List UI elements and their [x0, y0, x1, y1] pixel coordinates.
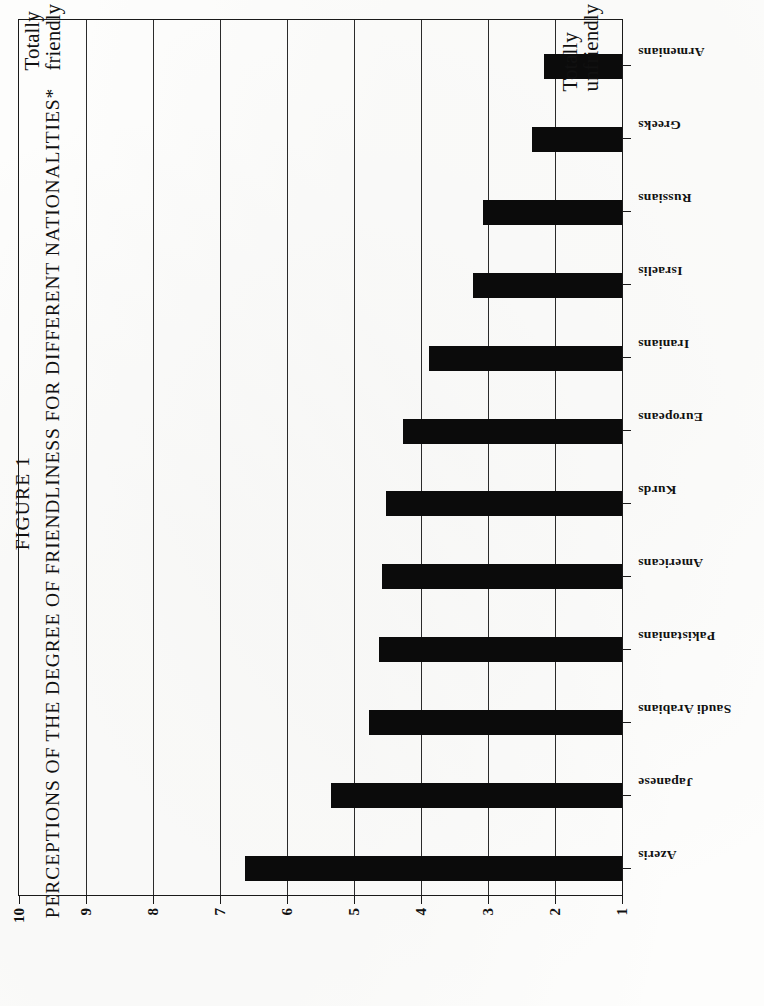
x-tick — [622, 868, 631, 869]
x-tick — [622, 430, 631, 431]
bar — [331, 783, 622, 808]
annotation-unfriendly-line2: unfriendly — [581, 4, 602, 91]
x-tick — [622, 576, 631, 577]
x-tick — [622, 284, 631, 285]
y-tick-label: 2 — [547, 908, 564, 916]
bar — [532, 127, 622, 152]
plot-area: 12345678910 AzerisJapaneseSaudi Arabians… — [18, 19, 623, 896]
bar — [403, 419, 622, 444]
x-tick — [622, 649, 631, 650]
bar — [245, 856, 622, 881]
bar — [382, 564, 622, 589]
y-tick-label: 8 — [145, 908, 162, 916]
y-tick-label: 9 — [78, 908, 95, 916]
gridline — [488, 20, 489, 895]
x-tick — [622, 211, 631, 212]
bar — [369, 710, 622, 735]
annotation-totally-unfriendly: Totally unfriendly — [560, 4, 603, 91]
gridline — [421, 20, 422, 895]
x-tick-label: Americans — [638, 555, 703, 571]
annotation-totally-friendly: Totally friendly — [22, 4, 65, 70]
x-tick-label: Pakistanians — [638, 628, 715, 644]
x-tick-label: Israelis — [638, 263, 682, 279]
x-tick-label: Saudi Arabians — [638, 701, 731, 717]
y-tick — [86, 895, 87, 904]
y-tick-label: 10 — [11, 908, 28, 923]
x-tick-label: Iranians — [638, 336, 689, 352]
y-tick-label: 6 — [279, 908, 296, 916]
y-tick — [622, 895, 623, 904]
y-tick-label: 4 — [413, 908, 430, 916]
x-tick-label: Russians — [638, 190, 691, 206]
x-tick-label: Japanese — [638, 774, 693, 790]
bar — [386, 491, 623, 516]
y-tick — [354, 895, 355, 904]
figure-container: FIGURE 1 PERCEPTIONS OF THE DEGREE OF FR… — [0, 0, 764, 1006]
y-tick-label: 3 — [480, 908, 497, 916]
x-tick — [622, 795, 631, 796]
x-tick-label: Azeris — [638, 847, 677, 863]
x-tick-label: Greeks — [638, 117, 681, 133]
y-tick-label: 7 — [212, 908, 229, 916]
x-tick — [622, 357, 631, 358]
y-tick — [287, 895, 288, 904]
gridline — [86, 20, 87, 895]
x-tick — [622, 138, 631, 139]
bar — [473, 273, 622, 298]
y-tick-label: 5 — [346, 908, 363, 916]
y-tick — [153, 895, 154, 904]
x-tick — [622, 65, 631, 66]
annotation-unfriendly-line1: Totally — [560, 4, 581, 91]
annotation-friendly-line2: friendly — [43, 4, 64, 70]
bar — [379, 637, 622, 662]
x-tick — [622, 503, 631, 504]
annotation-friendly-line1: Totally — [22, 4, 43, 70]
bar — [429, 346, 622, 371]
gridline — [220, 20, 221, 895]
x-tick — [622, 722, 631, 723]
x-tick-label: Armenians — [638, 44, 704, 60]
y-tick — [488, 895, 489, 904]
y-tick — [220, 895, 221, 904]
y-tick — [555, 895, 556, 904]
x-tick-label: Kurds — [638, 482, 676, 498]
scanned-page: FIGURE 1 PERCEPTIONS OF THE DEGREE OF FR… — [0, 0, 764, 1006]
gridline — [354, 20, 355, 895]
y-tick — [421, 895, 422, 904]
gridline — [153, 20, 154, 895]
bar — [483, 200, 622, 225]
gridline — [287, 20, 288, 895]
x-tick-label: Europeans — [638, 409, 703, 425]
y-tick-label: 1 — [614, 908, 631, 916]
y-tick — [19, 895, 20, 904]
